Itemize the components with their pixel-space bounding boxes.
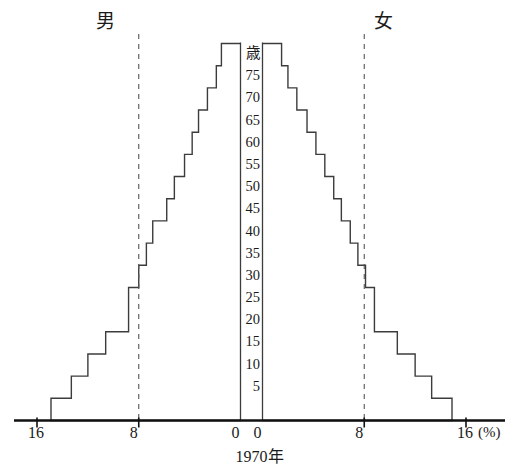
percent-unit-label: (%) (478, 424, 501, 441)
age-tick-20: 20 (238, 312, 260, 327)
age-tick-35: 35 (238, 246, 260, 261)
age-tick-5: 5 (238, 379, 260, 394)
x-tick-label-male-16: 16 (28, 424, 44, 442)
age-tick-60: 60 (238, 135, 260, 150)
population-pyramid-chart: 男 女 歳75706560555045403530252015105 16800… (0, 0, 519, 468)
age-tick-30: 30 (238, 268, 260, 283)
age-tick-70: 70 (238, 90, 260, 105)
age-tick-25: 25 (238, 290, 260, 305)
x-tick-label-female-8: 8 (355, 424, 363, 442)
age-tick-50: 50 (238, 179, 260, 194)
age-tick-40: 40 (238, 224, 260, 239)
age-tick-55: 55 (238, 157, 260, 172)
age-tick-10: 10 (238, 357, 260, 372)
x-tick-label-male-0: 0 (232, 424, 240, 442)
female-pyramid-outline (263, 44, 453, 421)
x-tick-label-female-16: 16 (457, 424, 473, 442)
age-tick-15: 15 (238, 334, 260, 349)
age-tick-75: 75 (238, 68, 260, 83)
chart-x-title: 1970年 (0, 443, 519, 467)
age-tick-45: 45 (238, 201, 260, 216)
x-tick-label-male-8: 8 (130, 424, 138, 442)
x-tick-label-female-0: 0 (254, 424, 262, 442)
age-tick-unit: 歳 (238, 46, 260, 61)
age-tick-65: 65 (238, 113, 260, 128)
male-pyramid-outline (51, 44, 241, 421)
